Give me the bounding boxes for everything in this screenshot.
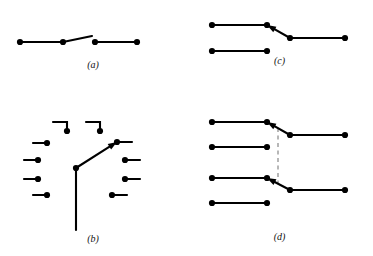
node-dot (35, 176, 41, 182)
node-dot (97, 128, 103, 134)
connector-arrow-d-upper-shaft (272, 125, 290, 135)
node-dot (209, 144, 215, 150)
jog-segment (63, 36, 92, 42)
connector-arrow-d-lower-head-icon (267, 178, 276, 185)
connector-arrow-c-shaft (272, 28, 290, 38)
node-dot (209, 22, 215, 28)
node-dot (134, 39, 140, 45)
node-dot (342, 132, 348, 138)
panel-d-arrows (267, 122, 290, 190)
node-dot (92, 39, 98, 45)
panel-c: (c) (186, 0, 373, 90)
node-dot (35, 157, 41, 163)
node-dot (342, 187, 348, 193)
node-dot (264, 200, 270, 206)
connector-arrow-d-upper-head-icon (267, 122, 276, 129)
node-dot (122, 176, 128, 182)
panel-d-lines (212, 122, 345, 203)
panel-c-label: (c) (186, 55, 373, 66)
node-dot (64, 128, 70, 134)
node-dot (44, 140, 50, 146)
node-dot (209, 200, 215, 206)
panel-d: (d) (186, 100, 373, 256)
node-dot (342, 35, 348, 41)
node-dot (60, 39, 66, 45)
node-dot (209, 175, 215, 181)
center-arrow-shaft (76, 145, 112, 168)
node-dot (109, 192, 115, 198)
panel-a-canvas (0, 0, 186, 90)
panel-b-arrows (76, 142, 117, 168)
node-dot (209, 48, 215, 54)
panel-a-lines (20, 36, 137, 42)
node-dot (264, 48, 270, 54)
connector-arrow-c-head-icon (267, 25, 276, 32)
node-dot (264, 144, 270, 150)
panel-c-lines (212, 25, 345, 51)
panel-b-lines (24, 122, 140, 230)
node-dot (209, 119, 215, 125)
node-dot (17, 39, 23, 45)
panel-b-dots (35, 128, 128, 198)
figure-root: (a) (b) (c) (d) (0, 0, 373, 256)
panel-d-label: (d) (186, 231, 373, 242)
panel-a: (a) (0, 0, 186, 90)
panel-c-arrows (267, 25, 290, 38)
node-dot (122, 157, 128, 163)
panel-a-label: (a) (0, 59, 186, 70)
panel-b-label: (b) (0, 233, 186, 244)
center-arrow-head-icon (108, 142, 117, 150)
panel-c-canvas (186, 0, 373, 90)
panel-b: (b) (0, 100, 186, 256)
node-dot (44, 192, 50, 198)
